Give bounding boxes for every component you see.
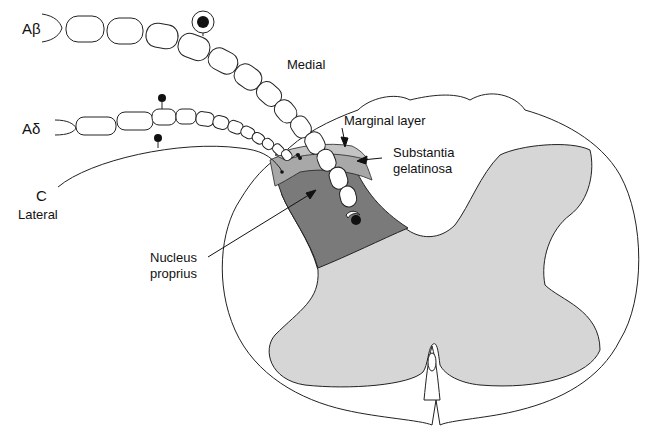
label-medial: Medial [287, 57, 325, 72]
label-nucleus-proprius-1: Nucleus [150, 250, 197, 265]
label-abeta: Aβ [22, 20, 41, 37]
label-substantia-gelatinosa-1: Substantia [393, 145, 455, 160]
label-marginal-layer: Marginal layer [344, 113, 426, 128]
central-canal-lumen [428, 353, 436, 371]
label-substantia-gelatinosa-2: gelatinosa [393, 161, 453, 176]
label-c: C [36, 187, 47, 204]
adelta-cell-body [158, 94, 166, 102]
label-lateral: Lateral [18, 207, 58, 222]
label-adelta: Aδ [22, 120, 40, 137]
c-fiber [58, 134, 284, 187]
c-cell-body [154, 134, 162, 142]
label-nucleus-proprius-2: proprius [150, 266, 197, 281]
spinal-cord-diagram: Aβ Aδ C Medial Lateral Marginal layer Su… [0, 0, 656, 441]
